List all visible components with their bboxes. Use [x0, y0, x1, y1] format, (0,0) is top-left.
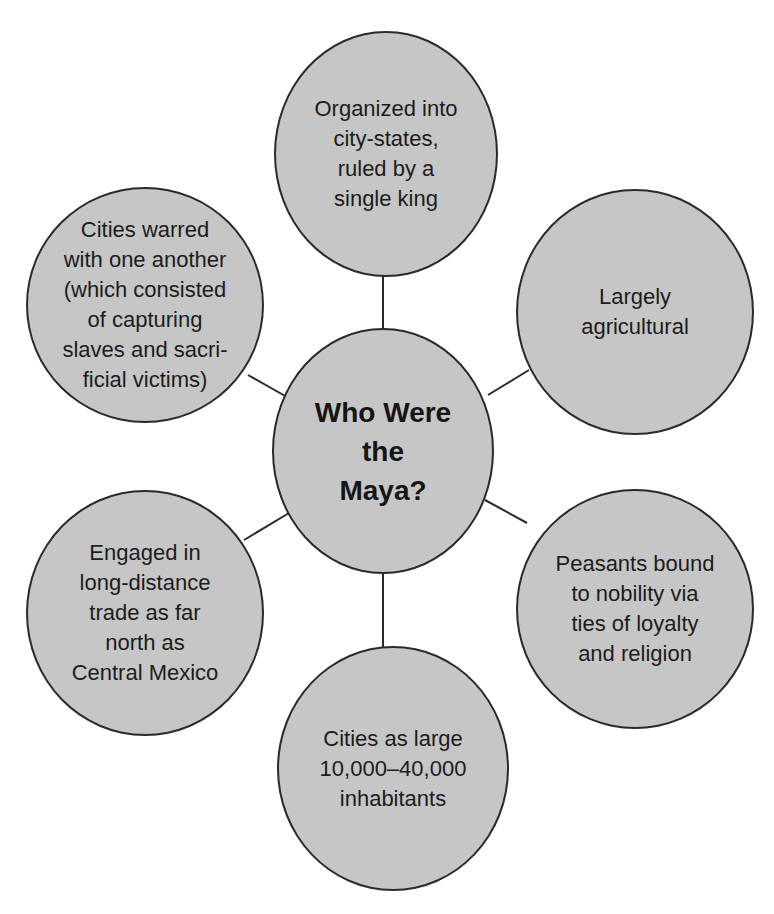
connector-lower-left: [244, 513, 289, 540]
node-upper-left-label: Cities warred with one another (which co…: [62, 215, 227, 395]
connector-upper-right: [488, 370, 529, 395]
center-title: Who Were the Maya?: [315, 393, 451, 510]
connector-lower-right: [485, 500, 527, 523]
node-lower-left-label: Engaged in long-distance trade as far no…: [72, 538, 219, 688]
node-bottom-label: Cities as large 10,000–40,000 inhabitant…: [320, 724, 467, 814]
node-lower-right-label: Peasants bound to nobility via ties of l…: [555, 549, 714, 669]
node-upper-right-label: Largely agricultural: [581, 282, 689, 342]
node-top: Organized into city-states, ruled by a s…: [274, 31, 498, 277]
node-center: Who Were the Maya?: [272, 328, 494, 574]
node-bottom: Cities as large 10,000–40,000 inhabitant…: [277, 646, 509, 891]
node-lower-right: Peasants bound to nobility via ties of l…: [516, 489, 754, 729]
node-lower-left: Engaged in long-distance trade as far no…: [26, 490, 264, 736]
node-upper-left: Cities warred with one another (which co…: [26, 187, 264, 423]
node-top-label: Organized into city-states, ruled by a s…: [314, 94, 457, 214]
node-upper-right: Largely agricultural: [516, 189, 754, 435]
connector-upper-left: [248, 375, 287, 397]
